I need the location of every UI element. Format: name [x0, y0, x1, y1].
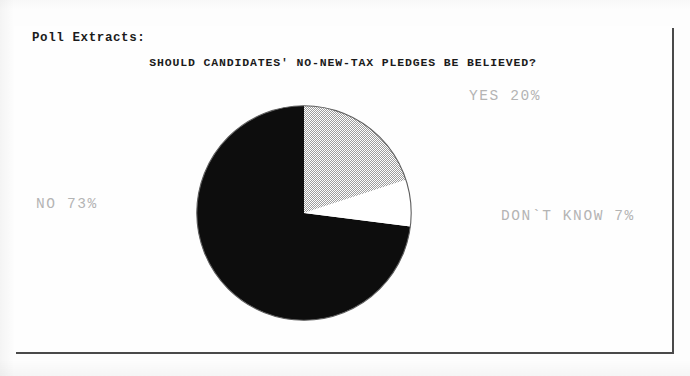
- pie-chart: [194, 103, 414, 323]
- pie-label-no: NO 73%: [36, 196, 98, 212]
- poll-extracts-label: Poll Extracts:: [32, 31, 145, 45]
- poll-extract-figure-box: Poll Extracts: SHOULD CANDIDATES' NO-NEW…: [14, 26, 672, 352]
- pie-label-yes: YES 20%: [469, 88, 541, 104]
- chart-title: SHOULD CANDIDATES' NO-NEW-TAX PLEDGES BE…: [14, 56, 672, 69]
- scanned-page: office when the candidate Poll Extracts:…: [0, 0, 690, 376]
- page-bleed-text: office when the candidate: [93, 0, 286, 2]
- pie-label-dont-know: DON`T KNOW 7%: [501, 208, 635, 224]
- pie-chart-svg: [194, 103, 414, 323]
